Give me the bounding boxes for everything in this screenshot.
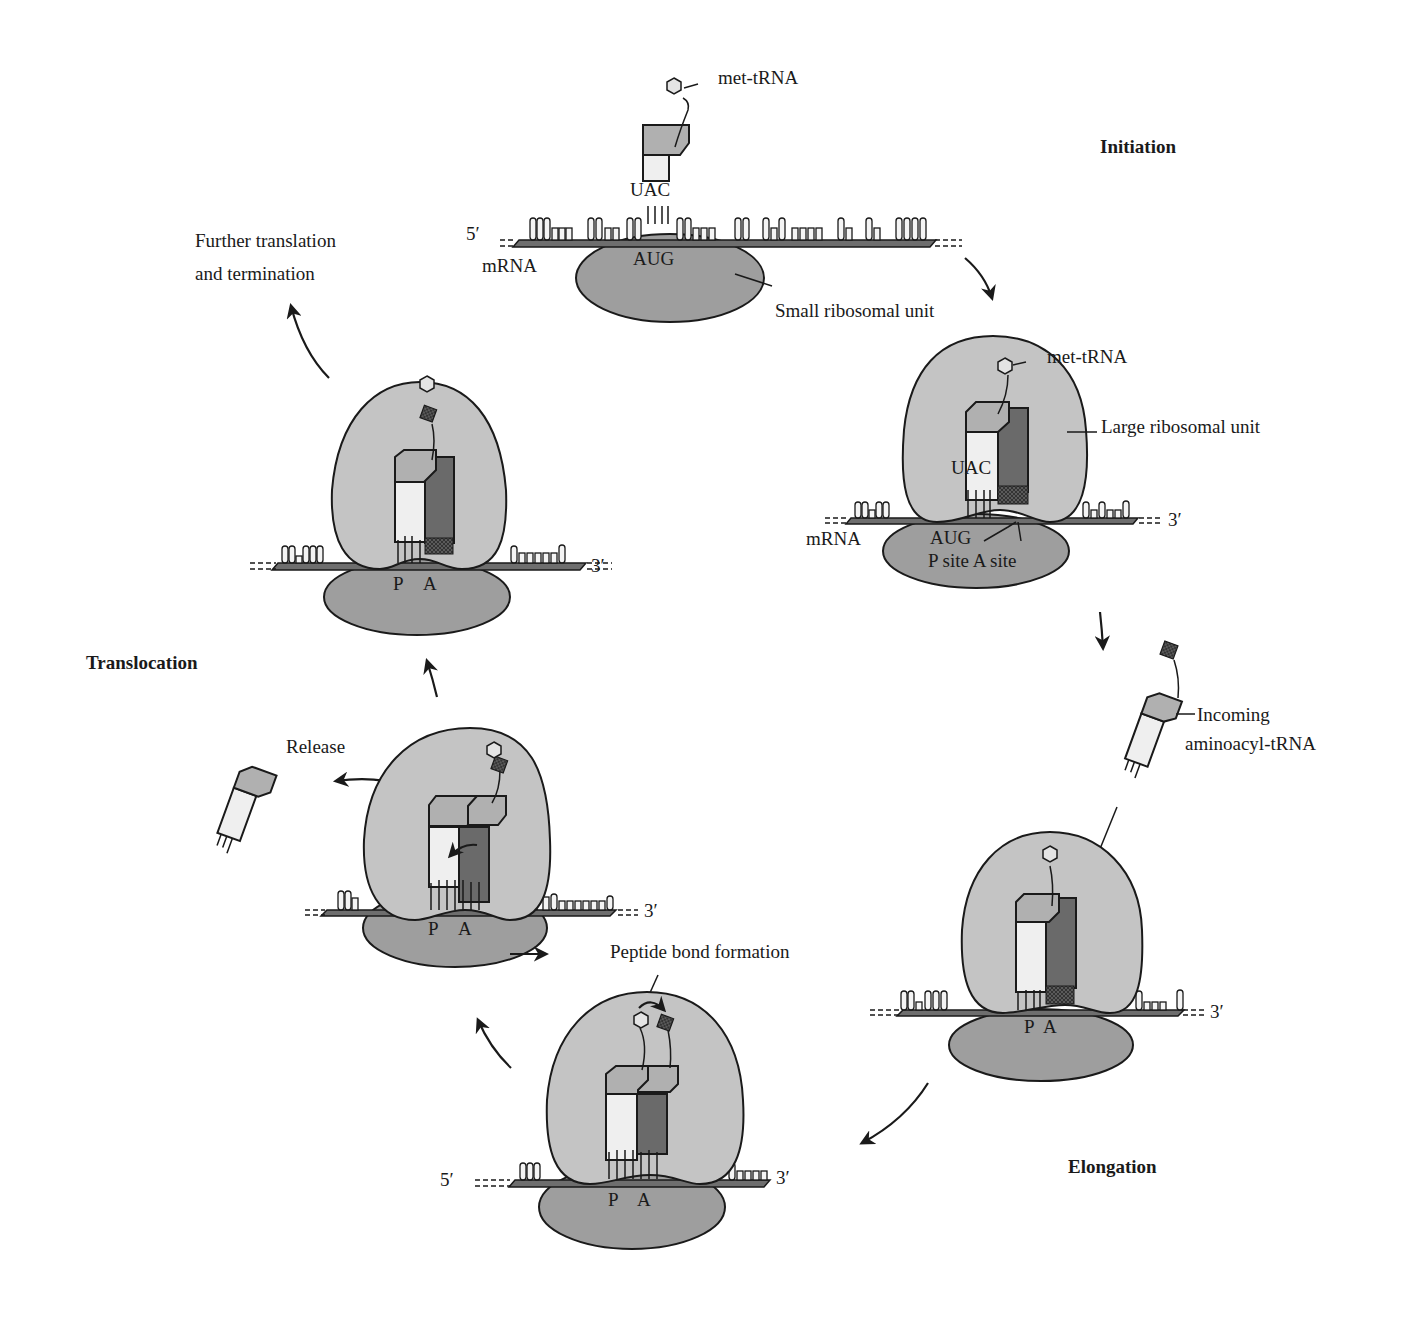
stage-label-elongation: Elongation xyxy=(1068,1156,1157,1177)
mrna-strand xyxy=(846,518,1138,524)
methionine-hexagon-icon xyxy=(998,358,1012,374)
mrna-strand xyxy=(513,240,936,247)
large-unit-label: Large ribosomal unit xyxy=(1101,416,1261,437)
peptide-hexagon-icon xyxy=(1043,846,1057,862)
cycle-arrow xyxy=(427,661,437,697)
peptide-hexagon-icon xyxy=(487,742,501,758)
mrna-strand xyxy=(509,1180,770,1187)
a-site-trna xyxy=(637,1094,667,1154)
mrna-label: mRNA xyxy=(806,528,861,549)
peptide-hexagon-icon xyxy=(420,376,434,392)
release-panel: Release xyxy=(212,728,658,967)
cycle-arrow xyxy=(478,1020,511,1068)
stage-label-translocation: Translocation xyxy=(86,652,198,673)
methionine-hexagon-icon xyxy=(667,78,681,94)
a-site-label: A xyxy=(458,918,472,939)
initiation-panel: met-tRNA UAC 5′ mRNA AUG Small ribosomal… xyxy=(466,67,962,322)
incoming-label-line1: Incoming xyxy=(1197,704,1270,725)
three-prime-label: 3′ xyxy=(1168,509,1182,530)
three-prime-label: 3′ xyxy=(776,1167,790,1188)
five-prime-label: 5′ xyxy=(466,223,480,244)
assembled-ribosome-panel: met-tRNA Large ribosomal unit UAC mRNA A… xyxy=(806,336,1261,588)
met-trna-label: met-tRNA xyxy=(1047,346,1127,367)
cycle-arrow xyxy=(291,306,329,378)
anticodon-label: UAC xyxy=(951,457,991,478)
a-site-trna-head xyxy=(468,796,506,825)
mrna-bases xyxy=(530,218,926,240)
a-site-label: A xyxy=(637,1189,651,1210)
mrna-label: mRNA xyxy=(482,255,537,276)
sites-label: P site A site xyxy=(928,550,1017,571)
p-site-trna-stem xyxy=(1016,920,1046,992)
p-site-label: P xyxy=(608,1189,619,1210)
stage-label-initiation: Initiation xyxy=(1100,136,1176,157)
met-trna-label: met-tRNA xyxy=(718,67,798,88)
three-prime-label: 3′ xyxy=(1210,1001,1224,1022)
released-trna xyxy=(212,763,277,860)
a-site-label: A xyxy=(423,573,437,594)
cycle-arrow xyxy=(1100,612,1103,648)
met-trna-head xyxy=(643,125,689,155)
a-site-label: A xyxy=(1043,1016,1057,1037)
p-site-trna-head xyxy=(395,450,436,482)
small-unit-label: Small ribosomal unit xyxy=(775,300,935,321)
anticodon-label: UAC xyxy=(630,179,670,200)
three-prime-label: 3′ xyxy=(591,555,605,576)
elongation-panel: P A 3′ xyxy=(870,832,1224,1081)
five-prime-label: 5′ xyxy=(440,1169,454,1190)
p-site-trna-stem xyxy=(395,482,425,542)
small-ribosomal-subunit xyxy=(949,1009,1133,1081)
amino-acid-square-icon xyxy=(1160,641,1178,659)
codon-label: AUG xyxy=(930,527,971,548)
incoming-label-line2: aminoacyl-tRNA xyxy=(1185,733,1316,754)
cycle-arrow xyxy=(862,1083,928,1143)
p-site-label: P xyxy=(428,918,439,939)
codon-anticodon-pairing xyxy=(648,206,668,224)
codon-label: AUG xyxy=(633,248,674,269)
met-trna-head xyxy=(966,402,1009,432)
incoming-trna-stem xyxy=(1125,713,1164,766)
met-trna-stem xyxy=(643,155,669,181)
mrna-strand xyxy=(272,563,586,570)
further-translation-line2: and termination xyxy=(195,263,315,284)
p-site-label: P xyxy=(393,573,404,594)
further-translation-line1: Further translation xyxy=(195,230,336,251)
peptide-hexagon-icon xyxy=(634,1012,648,1028)
release-label: Release xyxy=(286,736,345,757)
translocation-panel: P A 3′ xyxy=(250,376,612,635)
peptide-bond-label: Peptide bond formation xyxy=(610,941,790,962)
p-site-trna-stem xyxy=(429,827,459,887)
p-site-label: P xyxy=(1024,1016,1035,1037)
translation-cycle-diagram: Initiation Elongation Translocation xyxy=(0,0,1420,1319)
mrna-strand xyxy=(897,1010,1184,1016)
three-prime-label: 3′ xyxy=(644,900,658,921)
peptide-bond-panel: Peptide bond formation 5′ 3′ P A xyxy=(440,941,790,1249)
cycle-arrow xyxy=(965,258,992,298)
